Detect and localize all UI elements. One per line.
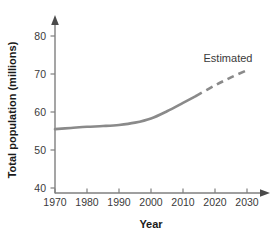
y-tick-label-80: 80 — [34, 30, 46, 42]
series-line-actual — [55, 96, 196, 129]
chart-figure: 80 70 60 50 40 1970 1980 1990 2000 2010 … — [0, 0, 276, 241]
x-tick-label-1970: 1970 — [43, 196, 67, 208]
estimated-annotation-label: Estimated — [204, 52, 253, 64]
y-axis-title: Total population (millions) — [6, 41, 18, 178]
series-line-estimated — [196, 70, 247, 96]
y-axis — [51, 15, 59, 194]
arrow-right-icon — [260, 189, 270, 197]
x-tick-label-2020: 2020 — [203, 196, 227, 208]
y-tick-label-70: 70 — [34, 68, 46, 80]
x-tick-label-2000: 2000 — [139, 196, 163, 208]
x-axis-title: Year — [139, 218, 163, 230]
x-tick-label-2030: 2030 — [235, 196, 259, 208]
x-tick-label-1980: 1980 — [75, 196, 99, 208]
y-axis-tick-labels: 80 70 60 50 40 — [34, 30, 46, 194]
x-tick-label-2010: 2010 — [171, 196, 195, 208]
y-tick-label-50: 50 — [34, 144, 46, 156]
arrow-up-icon — [51, 15, 59, 25]
y-tick-label-40: 40 — [34, 182, 46, 194]
line-chart-canvas: 80 70 60 50 40 1970 1980 1990 2000 2010 … — [0, 0, 276, 241]
y-tick-label-60: 60 — [34, 106, 46, 118]
x-tick-label-1990: 1990 — [107, 196, 131, 208]
x-axis-tick-labels: 1970 1980 1990 2000 2010 2020 2030 — [43, 196, 259, 208]
